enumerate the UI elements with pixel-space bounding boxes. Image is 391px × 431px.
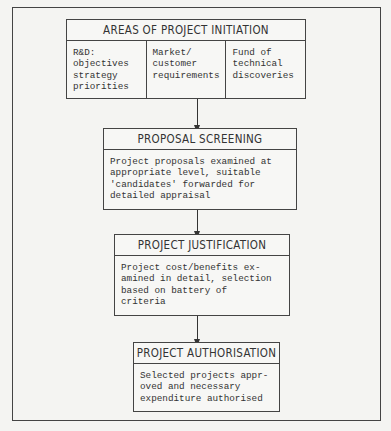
initiation-market: Market/ customer requirements: [147, 41, 227, 98]
justification-title: PROJECT JUSTIFICATION: [115, 235, 289, 256]
initiation-box: AREAS OF PROJECT INITIATION R&D: objecti…: [66, 19, 306, 99]
initiation-title: AREAS OF PROJECT INITIATION: [67, 20, 305, 41]
initiation-rd: R&D: objectives strategy priorities: [67, 41, 147, 98]
screening-text: Project proposals examined at appropriat…: [104, 150, 296, 207]
justification-text: Project cost/benefits ex- amined in deta…: [115, 256, 289, 313]
screening-box: PROPOSAL SCREENING Project proposals exa…: [103, 128, 297, 210]
screening-title: PROPOSAL SCREENING: [104, 129, 296, 150]
authorisation-text: Selected projects appr- oved and necessa…: [134, 364, 279, 410]
initiation-technical: Fund of technical discoveries: [226, 41, 305, 98]
justification-box: PROJECT JUSTIFICATION Project cost/benef…: [114, 234, 290, 316]
authorisation-box: PROJECT AUTHORISATION Selected projects …: [133, 342, 280, 412]
authorisation-title: PROJECT AUTHORISATION: [134, 343, 279, 364]
